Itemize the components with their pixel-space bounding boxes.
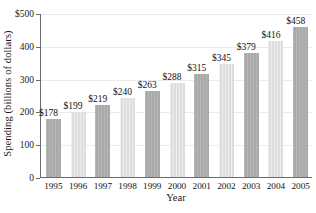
bar <box>170 83 185 177</box>
bar <box>71 112 86 177</box>
bar-value-label: $458 <box>279 16 313 26</box>
x-tick-label: 2001 <box>189 181 215 191</box>
bar <box>293 27 308 177</box>
y-tick-mark <box>36 47 40 48</box>
y-tick-label: 100 <box>20 140 34 150</box>
bar <box>219 64 234 177</box>
x-axis-line <box>40 177 312 178</box>
bar <box>95 105 110 177</box>
y-tick-label: 400 <box>20 42 34 52</box>
bar <box>120 98 135 177</box>
x-tick-label: 2003 <box>238 181 264 191</box>
x-tick-label: 2000 <box>164 181 190 191</box>
y-tick-label: 300 <box>20 75 34 85</box>
x-tick-label: 2002 <box>213 181 239 191</box>
x-tick-label: 2004 <box>263 181 289 191</box>
bar-value-label: $416 <box>254 30 288 40</box>
x-axis-title: Year <box>40 192 312 203</box>
plot-area: 0100200300400$500 $178$199$219$240$263$2… <box>40 14 312 178</box>
y-tick-mark <box>36 178 40 179</box>
y-tick-label: $500 <box>15 9 34 19</box>
y-axis-title: Spending (billions of dollars) <box>0 0 14 186</box>
bar-chart: Spending (billions of dollars) 010020030… <box>0 0 316 213</box>
y-axis-title-text: Spending (billions of dollars) <box>2 30 13 156</box>
x-tick-label: 2005 <box>288 181 314 191</box>
x-tick-label: 1997 <box>90 181 116 191</box>
gridline <box>41 14 312 15</box>
bar-value-label: $379 <box>229 42 263 52</box>
bar <box>46 119 61 177</box>
bar <box>244 53 259 177</box>
bar-value-label: $345 <box>204 53 238 63</box>
y-tick-mark <box>36 14 40 15</box>
y-axis-line <box>40 14 41 178</box>
x-tick-label: 1999 <box>139 181 165 191</box>
bar <box>145 91 160 177</box>
x-tick-label: 1996 <box>65 181 91 191</box>
bar <box>268 41 283 177</box>
bar <box>194 74 209 177</box>
bar-value-label: $288 <box>155 72 189 82</box>
y-tick-mark <box>36 80 40 81</box>
y-tick-mark <box>36 145 40 146</box>
x-tick-label: 1998 <box>115 181 141 191</box>
y-tick-label: 0 <box>29 173 34 183</box>
x-tick-label: 1995 <box>40 181 66 191</box>
bar-value-label: $315 <box>180 63 214 73</box>
